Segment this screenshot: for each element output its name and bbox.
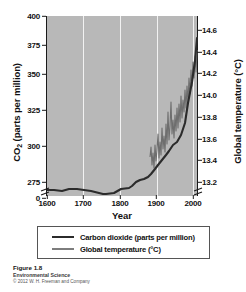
ytick-right-13-4: 13.4	[202, 156, 217, 165]
ytick-right-14-4: 14.4	[202, 48, 217, 57]
xtick-1700: 1700	[75, 199, 92, 208]
legend-label-global-temperature: Global temperature (°C)	[80, 245, 161, 254]
xtick-1900: 1900	[148, 199, 165, 208]
figure-container: 400 375 350 325 300 275 0 14.6 14.4 14.2…	[0, 0, 246, 292]
legend-label-carbon-dioxide: Carbon dioxide (parts per million)	[80, 233, 195, 242]
ytick-right-14-0: 14.0	[202, 91, 217, 100]
chart-legend: Carbon dioxide (parts per million) Globa…	[37, 226, 210, 259]
legend-swatch-global-temperature	[52, 248, 74, 249]
ytick-right-13-6: 13.6	[202, 135, 217, 144]
x-axis-title: Year	[46, 210, 198, 221]
xtick-1800: 1800	[112, 199, 129, 208]
legend-item-global-temperature: Global temperature (°C)	[52, 243, 209, 255]
ytick-left-400: 400	[0, 12, 40, 21]
xtick-1600: 1600	[39, 199, 56, 208]
ytick-right-14-6: 14.6	[202, 26, 217, 35]
figure-number: Figure 1.8	[13, 264, 193, 272]
data-curves	[47, 16, 199, 196]
xtick-2000: 2000	[185, 199, 202, 208]
ytick-right-13-8: 13.8	[202, 113, 217, 122]
legend-swatch-carbon-dioxide	[52, 236, 74, 239]
ytick-right-14-2: 14.2	[202, 69, 217, 78]
legend-item-carbon-dioxide: Carbon dioxide (parts per million)	[52, 231, 209, 243]
series-global-temperature	[150, 50, 197, 168]
figure-copyright: © 2012 W. H. Freeman and Company	[13, 279, 193, 285]
y-axis-title-right: Global temperature (°C)	[232, 37, 243, 187]
plot-area	[46, 16, 198, 196]
figure-caption: Figure 1.8 Environmental Science © 2012 …	[13, 264, 193, 286]
y-axis-title-left: CO2 (parts per million)	[11, 37, 24, 187]
axis-break-right-icon	[193, 186, 205, 198]
ytick-left-zero: 0	[0, 194, 40, 203]
